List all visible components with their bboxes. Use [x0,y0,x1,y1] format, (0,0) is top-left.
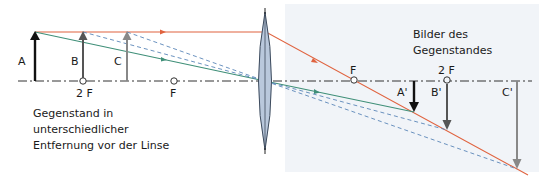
label-A-prime: A' [397,86,408,99]
object-caption: Gegenstand in unterschiedlicher Entfernu… [33,106,233,154]
label-C: C [114,55,122,68]
object-arrow-C [123,31,132,81]
object-arrow-B [79,31,88,81]
focal-point-left-f [171,78,177,84]
parallel-ray-arrow-icon [160,30,166,35]
focal-point-left-2f [80,78,86,84]
object-caption-line: Gegenstand in [33,106,233,122]
label-B: B [71,55,79,68]
focal-point-right-f [351,77,357,83]
object-caption-line: Entfernung vor der Linse [33,138,233,154]
label-right-2f: 2 F [438,64,455,77]
image-caption-line: Bilder des [413,27,533,43]
central-ray-arrow-icon [161,57,167,62]
image-caption: Bilder des Gegenstandes [413,27,533,59]
image-caption-line: Gegenstandes [413,43,533,59]
focal-point-right-2f [444,77,450,83]
label-A: A [18,55,26,68]
label-C-prime: C' [502,86,513,99]
object-caption-line: unterschiedlicher [33,122,233,138]
label-left-f: F [170,87,176,100]
object-arrow-A [30,31,40,81]
label-left-2f: 2 F [76,87,93,100]
label-B-prime: B' [431,86,442,99]
label-right-f: F [350,64,356,77]
